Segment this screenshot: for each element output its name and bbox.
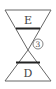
hourglass-diagram: E D 3 — [0, 0, 56, 89]
marker-number: 3 — [36, 40, 41, 49]
bottom-label: D — [24, 67, 33, 80]
top-label: E — [24, 14, 32, 27]
